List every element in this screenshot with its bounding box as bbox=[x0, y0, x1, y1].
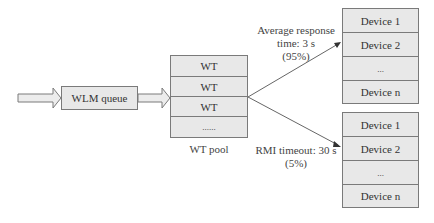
device-cell: ... bbox=[343, 161, 418, 185]
device-cell: Device n bbox=[343, 185, 418, 207]
wt-pool-cell: WT bbox=[171, 97, 247, 117]
wlm-queue-box: WLM queue bbox=[61, 86, 138, 110]
device-cell: ... bbox=[343, 57, 418, 81]
edge-top-label-line3: (95%) bbox=[250, 50, 342, 63]
wt-pool-stack: WT WT WT ...... bbox=[170, 55, 248, 138]
device-cell: Device n bbox=[343, 81, 418, 103]
device-cell: Device 1 bbox=[343, 113, 418, 137]
wt-pool-cell: ...... bbox=[171, 117, 247, 137]
edge-bottom-label-line2: (5%) bbox=[248, 157, 344, 170]
wlm-queue-label: WLM queue bbox=[72, 92, 128, 104]
edge-top-label-line1: Average response bbox=[250, 24, 342, 37]
device-cell: Device 2 bbox=[343, 33, 418, 57]
device-cell: Device 2 bbox=[343, 137, 418, 161]
wt-pool-cell: WT bbox=[171, 56, 247, 77]
edge-top-label-line2: time: 3 s bbox=[250, 37, 342, 50]
device-group-top: Device 1 Device 2 ... Device n bbox=[342, 8, 419, 104]
edge-bottom-label: RMI timeout: 30 s (5%) bbox=[248, 144, 344, 170]
edge-bottom-label-line1: RMI timeout: 30 s bbox=[248, 144, 344, 157]
queue-to-pool-arrow-icon bbox=[138, 88, 170, 108]
device-group-bottom: Device 1 Device 2 ... Device n bbox=[342, 112, 419, 208]
input-arrow-icon bbox=[18, 88, 61, 108]
edge-to-bottom-devices bbox=[248, 97, 341, 147]
device-cell: Device 1 bbox=[343, 9, 418, 33]
edge-top-label: Average response time: 3 s (95%) bbox=[250, 24, 342, 63]
wt-pool-caption: WT pool bbox=[170, 143, 248, 156]
diagram-canvas: WLM queue WT WT WT ...... WT pool Device… bbox=[0, 0, 434, 223]
wt-pool-cell: WT bbox=[171, 77, 247, 97]
